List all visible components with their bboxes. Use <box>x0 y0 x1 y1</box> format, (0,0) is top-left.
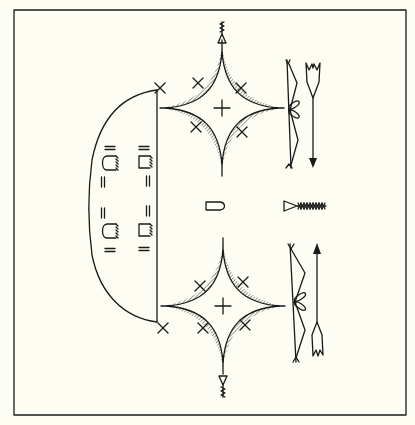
footprints <box>102 147 153 252</box>
star-bottom <box>161 238 285 374</box>
bullet-icon <box>206 202 225 210</box>
feathered-arrowhead-icon <box>284 201 326 211</box>
bow-bottom-icon <box>288 244 307 362</box>
arrow-up-icon <box>312 243 323 356</box>
star-top <box>160 40 284 176</box>
frame-border <box>14 10 406 415</box>
diagram-canvas: Sand painting: lodge with footprints, st… <box>0 0 415 425</box>
feather-bottom-icon <box>219 376 227 397</box>
lodge-outline <box>89 83 168 333</box>
arrow-down-icon <box>306 63 320 168</box>
bow-top-icon <box>286 60 300 168</box>
